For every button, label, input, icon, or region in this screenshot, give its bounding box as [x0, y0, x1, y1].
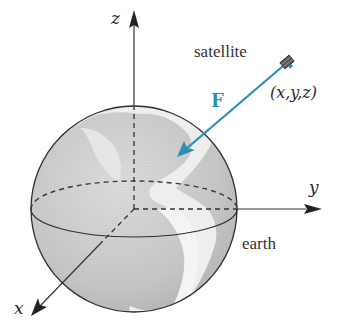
force-label: F — [211, 90, 224, 111]
x-axis-label: x — [14, 298, 24, 318]
position-label: (x,y,z) — [270, 83, 317, 102]
earth-label: earth — [242, 234, 276, 253]
force-vector — [177, 66, 283, 157]
z-axis-label: z — [110, 8, 121, 28]
y-axis-label: y — [308, 177, 319, 197]
satellite-label: satellite — [194, 42, 247, 61]
satellite-icon — [280, 55, 296, 71]
y-arrowhead-icon — [304, 204, 322, 214]
satellite-force-diagram: z y x satellite (x,y,z) F earth — [0, 0, 339, 330]
